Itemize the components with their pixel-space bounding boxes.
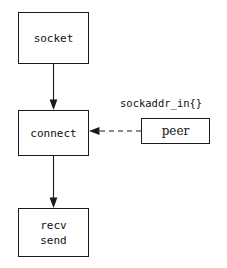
- node-recv-send[interactable]: recv send: [18, 208, 89, 257]
- arrowhead-down-icon: [50, 100, 58, 111]
- socket-flow-diagram: socket connect sockaddr_in{} peer recv s…: [0, 0, 227, 268]
- node-socket-label: socket: [34, 31, 74, 46]
- edge-peer-to-connect: [89, 127, 141, 135]
- edge-connect-to-recv-send: [50, 156, 58, 208]
- node-recv-label: recv: [40, 218, 67, 233]
- node-send-label: send: [40, 233, 67, 248]
- node-socket[interactable]: socket: [18, 12, 89, 64]
- node-peer[interactable]: peer: [141, 118, 210, 144]
- arrowhead-left-icon: [89, 127, 100, 135]
- sockaddr-struct-annotation: sockaddr_in{}: [120, 97, 202, 109]
- node-connect-label: connect: [30, 126, 76, 141]
- node-connect[interactable]: connect: [18, 110, 89, 156]
- node-peer-label: peer: [162, 124, 190, 139]
- edge-socket-to-connect: [50, 64, 58, 110]
- arrowhead-down-icon: [50, 198, 58, 209]
